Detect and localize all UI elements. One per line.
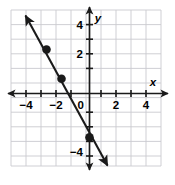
data-point bbox=[57, 75, 66, 84]
y-tick-label-pos2: 2 bbox=[77, 48, 83, 60]
graph-canvas: −4 −2 2 4 4 2 −4 0 x y bbox=[0, 0, 175, 185]
y-axis-label: y bbox=[94, 12, 102, 24]
y-tick-label-pos4: 4 bbox=[77, 19, 84, 31]
x-tick-label-neg4: −4 bbox=[19, 99, 33, 111]
x-tick-label-pos2: 2 bbox=[113, 99, 119, 111]
origin-label: 0 bbox=[78, 99, 84, 111]
coordinate-plane-figure: −4 −2 2 4 4 2 −4 0 x y bbox=[0, 0, 175, 185]
x-tick-label-pos4: 4 bbox=[143, 99, 150, 111]
x-axis-label: x bbox=[149, 76, 157, 88]
x-tick-label-neg2: −2 bbox=[49, 99, 62, 111]
y-tick-label-neg4: −4 bbox=[70, 146, 84, 158]
data-point bbox=[42, 45, 51, 54]
data-point bbox=[85, 133, 94, 142]
